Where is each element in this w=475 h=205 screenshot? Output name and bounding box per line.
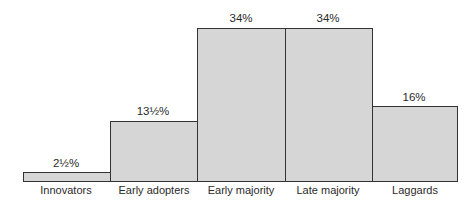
- category-label-innovators: Innovators: [21, 184, 111, 196]
- category-label-late-majority: Late majority: [283, 184, 373, 196]
- bar-innovators: [23, 172, 111, 182]
- bar-early-adopters: [110, 121, 198, 182]
- bar-laggards: [372, 106, 458, 182]
- value-label-late-majority: 34%: [283, 12, 373, 24]
- value-label-innovators: 2½%: [21, 157, 111, 169]
- category-label-laggards: Laggards: [370, 184, 460, 196]
- bar-late-majority: [285, 28, 373, 182]
- category-label-early-adopters: Early adopters: [109, 184, 199, 196]
- value-label-laggards: 16%: [369, 91, 459, 103]
- bar-early-majority: [197, 28, 286, 182]
- category-label-early-majority: Early majority: [196, 184, 286, 196]
- value-label-early-adopters: 13½%: [108, 105, 198, 117]
- value-label-early-majority: 34%: [196, 12, 286, 24]
